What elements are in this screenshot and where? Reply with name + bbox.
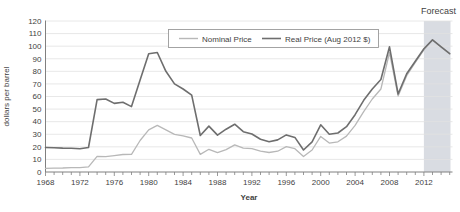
y-tick-label-100: 100 [28, 42, 42, 51]
y-tick-label-0: 0 [37, 168, 42, 177]
y-axis-title: dollars per barrel [2, 66, 11, 126]
y-tick-label-60: 60 [33, 92, 42, 101]
x-axis-title: Year [241, 193, 258, 202]
x-tick-label-1968: 1968 [37, 178, 55, 187]
legend: Nominal Price Real Price (Aug 2012 $) [169, 30, 379, 48]
x-tick-label-2012: 2012 [415, 178, 433, 187]
y-tick-label-110: 110 [29, 29, 42, 38]
x-tick-label-1980: 1980 [140, 178, 158, 187]
x-tick-label-2000: 2000 [312, 178, 330, 187]
y-tick-label-120: 120 [28, 17, 42, 26]
data-series-lines [46, 40, 450, 169]
oil-price-chart-screenshot: 1968197219761980198419881992199620002004… [0, 0, 460, 212]
x-tick-label-1972: 1972 [71, 178, 89, 187]
x-tick-label-1988: 1988 [209, 178, 227, 187]
y-tick-label-40: 40 [33, 117, 42, 126]
forecast-annotation-label: Forecast [421, 6, 457, 16]
y-tick-label-10: 10 [33, 155, 42, 164]
x-tick-label-1984: 1984 [174, 178, 192, 187]
x-tick-label-1992: 1992 [243, 178, 261, 187]
y-tick-label-20: 20 [33, 143, 42, 152]
legend-label-real-price: Real Price (Aug 2012 $) [285, 35, 371, 44]
x-tick-label-2004: 2004 [346, 178, 364, 187]
y-tick-label-80: 80 [33, 67, 42, 76]
y-tick-label-50: 50 [33, 105, 42, 114]
y-axis-tick-labels: 0102030405060708090100110120 [28, 17, 42, 177]
x-tick-label-1996: 1996 [277, 178, 295, 187]
y-tick-label-90: 90 [33, 55, 42, 64]
y-tick-label-30: 30 [33, 130, 42, 139]
series-line-nominal-price [46, 40, 450, 169]
x-tick-label-2008: 2008 [381, 178, 399, 187]
legend-label-nominal-price: Nominal Price [202, 35, 252, 44]
x-tick-label-1976: 1976 [105, 178, 123, 187]
y-tick-label-70: 70 [33, 80, 42, 89]
x-axis-ticks: 1968197219761980198419881992199620002004… [37, 172, 450, 187]
oil-price-line-chart: 1968197219761980198419881992199620002004… [0, 0, 460, 212]
